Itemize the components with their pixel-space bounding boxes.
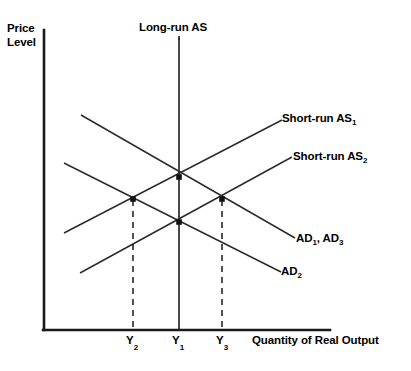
x-tick-label-y3-subscript: 3 [224, 343, 228, 352]
sras1-curve [64, 120, 282, 233]
equilibrium-marker-e1 [176, 174, 182, 180]
lras-label-text: Long-run AS [139, 21, 207, 33]
ad13-label-subscript-b: 3 [339, 238, 343, 247]
lras-label: Long-run AS [139, 21, 207, 35]
ad2-label: AD2 [281, 265, 302, 279]
y-axis-label: Price Level [7, 22, 36, 49]
x-tick-label-y3-text: Y [216, 334, 224, 346]
sras1-label-text: Short-run AS [282, 112, 352, 124]
ad13-label: AD1, AD3 [296, 232, 343, 246]
equilibrium-marker-e2 [130, 196, 136, 202]
sras2-label-subscript: 2 [363, 156, 367, 165]
ad13-curve [81, 115, 295, 238]
x-tick-label-y2: Y2 [126, 334, 138, 346]
x-tick-label-y1: Y1 [172, 334, 184, 346]
equilibrium-marker-e4 [176, 219, 182, 225]
x-tick-label-y1-text: Y [172, 334, 180, 346]
y-axis-label-line1: Price [7, 22, 36, 36]
ad2-label-text: AD [281, 265, 297, 277]
ad2-label-subscript: 2 [297, 271, 301, 280]
sras2-label: Short-run AS2 [293, 150, 367, 164]
sras2-label-text: Short-run AS [293, 150, 363, 162]
x-tick-label-y2-subscript: 2 [134, 343, 138, 352]
x-tick-label-y3: Y3 [216, 334, 228, 346]
y-axis-label-line2: Level [7, 36, 36, 50]
sras1-label: Short-run AS1 [282, 112, 356, 126]
ad13-label-text-b: AD [323, 232, 339, 244]
sras1-label-subscript: 1 [352, 118, 356, 127]
x-tick-label-y1-subscript: 1 [180, 343, 184, 352]
x-axis-label-text: Quantity of Real Output [252, 334, 379, 346]
ad13-label-text-a: AD [296, 232, 312, 244]
x-tick-label-y2-text: Y [126, 334, 134, 346]
sras2-curve [80, 157, 292, 273]
equilibrium-marker-e3 [219, 196, 225, 202]
ad13-label-subscript-a: 1 [312, 238, 316, 247]
diagram-canvas [0, 0, 411, 371]
as-ad-diagram: Price Level Long-run AS Short-run AS1 Sh… [0, 0, 411, 371]
ad2-curve [64, 163, 281, 272]
x-axis-label: Quantity of Real Output [252, 334, 379, 348]
